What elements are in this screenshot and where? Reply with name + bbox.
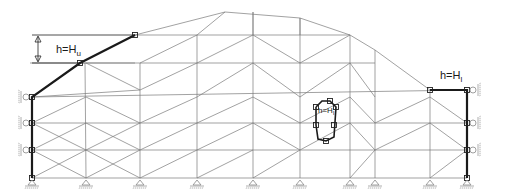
pin-support-icon <box>190 180 204 189</box>
mesh-edge <box>300 123 350 150</box>
pin-support-icon <box>343 180 357 189</box>
mesh-edge <box>300 18 350 35</box>
mesh-edge <box>197 35 253 63</box>
mesh-edge <box>140 63 197 90</box>
roller-support-icon <box>18 116 29 129</box>
mesh-edge <box>253 63 300 97</box>
mesh-edge <box>253 150 300 178</box>
mesh-edge <box>32 97 86 123</box>
mesh-edge <box>375 50 430 90</box>
inner-boundary-label: h=Hl <box>318 106 334 116</box>
mesh-edge <box>86 97 140 123</box>
mesh-edge <box>197 63 253 97</box>
mesh-edge <box>197 150 253 178</box>
pin-support-icon <box>25 180 39 189</box>
mesh-edge <box>300 35 350 63</box>
pin-support-icon <box>368 180 382 189</box>
mesh-edge <box>350 123 375 150</box>
roller-support-icon <box>470 116 481 129</box>
pin-support-icon <box>460 180 474 189</box>
mesh-edge <box>197 97 253 123</box>
mesh-edge <box>430 97 467 123</box>
mesh-edge <box>86 63 140 90</box>
dimension-marker <box>32 35 135 63</box>
mesh-edge <box>430 150 467 178</box>
pin-support-icon <box>423 180 437 189</box>
mesh-edge <box>375 123 430 150</box>
mesh-lines <box>30 12 467 178</box>
mesh-edge <box>32 90 467 97</box>
upper-boundary-label: h=Hu <box>56 43 81 58</box>
mesh-edge <box>350 35 375 50</box>
upper-boundary-edge <box>32 35 135 178</box>
mesh-edge <box>350 150 375 178</box>
mesh-edge <box>350 97 375 123</box>
mesh-edge <box>253 123 300 150</box>
pin-support-icon <box>246 180 260 189</box>
mesh-edge <box>85 63 86 178</box>
labels: h=Hu h=Hl h=Hl <box>56 43 463 116</box>
mesh-edge <box>253 97 300 123</box>
roller-support-icon <box>470 83 481 96</box>
mesh-edge <box>140 97 197 123</box>
mesh-edge <box>253 35 300 63</box>
pin-support-icon <box>79 180 93 189</box>
structural-mesh-diagram: h=Hu h=Hl h=Hl <box>0 0 508 195</box>
lower-boundary-label: h=Hl <box>440 69 463 84</box>
mesh-edge <box>375 97 430 123</box>
roller-support-icon <box>470 143 481 156</box>
mesh-edge <box>225 12 300 18</box>
mesh-edge <box>197 123 253 150</box>
roller-support-icon <box>18 143 29 156</box>
lower-boundary-edge <box>430 90 467 178</box>
pin-support-icon <box>293 180 307 189</box>
pin-support-icon <box>133 180 147 189</box>
mesh-edge <box>140 150 197 178</box>
mesh-edge <box>140 123 197 150</box>
roller-support-icon <box>18 90 29 103</box>
mesh-edge <box>140 35 197 63</box>
mesh-edge <box>430 123 467 150</box>
boundary-edges <box>32 35 467 178</box>
